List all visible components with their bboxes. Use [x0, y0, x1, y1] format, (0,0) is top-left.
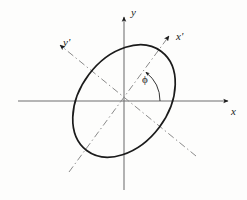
- x-axis-label: x: [231, 106, 236, 117]
- x-prime-axis-label: x': [176, 31, 183, 42]
- figure-canvas: y x x' y' ϕ: [0, 0, 247, 200]
- x-prime-axis-line: [69, 36, 169, 172]
- y-axis-label: y: [131, 7, 136, 18]
- phi-angle-label: ϕ: [142, 74, 148, 85]
- coordinate-diagram: [0, 0, 247, 200]
- y-prime-axis-label: y': [63, 37, 70, 48]
- angle-arc: [146, 72, 160, 101]
